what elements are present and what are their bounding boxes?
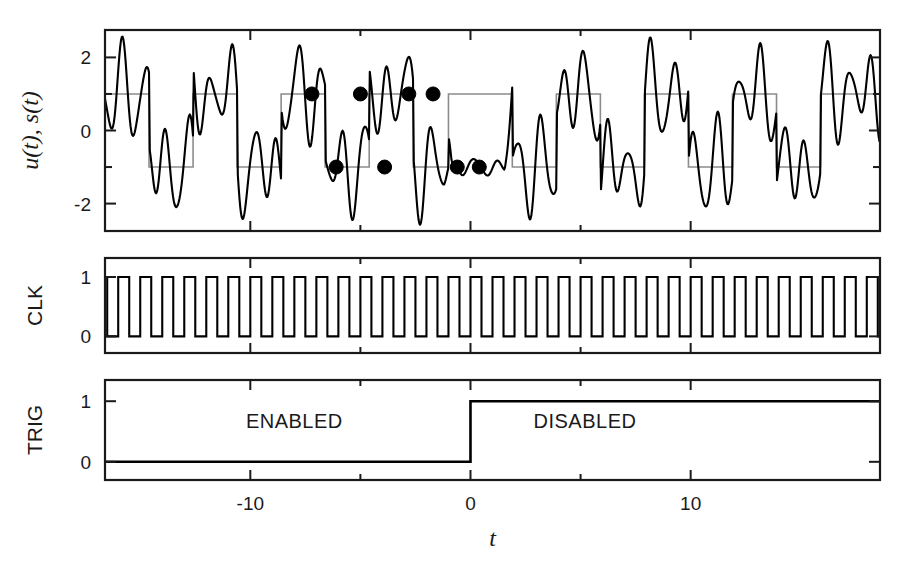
- sample-marker-dot: [426, 87, 440, 101]
- sample-marker-dot: [329, 160, 343, 174]
- sample-marker-dot: [378, 160, 392, 174]
- sample-marker-dot: [402, 87, 416, 101]
- y-tick-label: 0: [80, 326, 91, 347]
- sample-marker-dot: [450, 160, 464, 174]
- clk-panel-ylabel: CLK: [23, 285, 46, 326]
- x-tick-label: -10: [237, 493, 264, 514]
- y-tick-label: 1: [80, 391, 91, 412]
- trig-panel-ylabel: TRIG: [23, 405, 46, 455]
- y-tick-label: -2: [74, 194, 91, 215]
- y-tick-label: 1: [80, 267, 91, 288]
- sample-marker-dot: [472, 160, 486, 174]
- multi-panel-waveform-figure: -202 01 -1001001ENABLEDDISABLED u(t), s(…: [0, 0, 918, 568]
- disabled-label: DISABLED: [534, 410, 637, 432]
- signal-panel-ylabel: u(t), s(t): [17, 91, 43, 170]
- enabled-label: ENABLED: [246, 410, 343, 432]
- sample-marker-dot: [353, 87, 367, 101]
- y-tick-label: 0: [80, 121, 91, 142]
- x-tick-label: 0: [465, 493, 476, 514]
- y-tick-label: 2: [80, 47, 91, 68]
- y-tick-label: 0: [80, 452, 91, 473]
- sample-marker-dot: [305, 87, 319, 101]
- x-tick-label: 10: [680, 493, 701, 514]
- figure-root: -202 01 -1001001ENABLEDDISABLED u(t), s(…: [0, 0, 918, 568]
